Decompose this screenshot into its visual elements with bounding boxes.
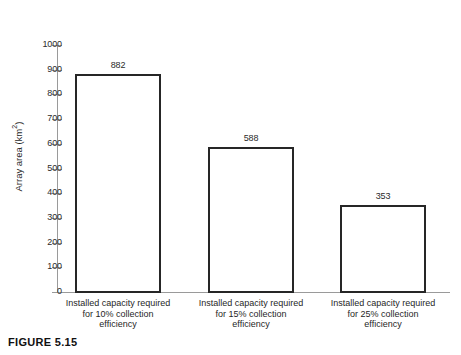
category-label-line: for 25% collection — [325, 309, 441, 320]
bar-series-0 — [75, 74, 161, 293]
bar-chart-plot: Array area (km2) 1000 900 800 700 600 50… — [0, 0, 461, 330]
y-axis-title-superscript: 2 — [11, 125, 18, 129]
y-tick-label: 0 — [28, 287, 62, 296]
y-tick-label: 400 — [28, 188, 62, 197]
y-tick-label: 500 — [28, 164, 62, 173]
y-tick-label: 200 — [28, 238, 62, 247]
bar-value-label: 882 — [75, 61, 161, 70]
category-label-line: for 10% collection — [60, 309, 176, 320]
category-label-line: Installed capacity required — [325, 298, 441, 309]
category-label-line: Installed capacity required — [193, 298, 309, 309]
figure-container: Array area (km2) 1000 900 800 700 600 50… — [0, 0, 461, 355]
figure-caption: FIGURE 5.15 — [8, 336, 77, 349]
y-tick-label: 700 — [28, 114, 62, 123]
bar-value-label: 353 — [340, 192, 426, 201]
y-tick-label: 100 — [28, 262, 62, 271]
bar-series-1 — [208, 147, 294, 293]
category-label-line: Installed capacity required — [60, 298, 176, 309]
y-tick-label: 1000 — [28, 40, 62, 49]
bar-value-label: 588 — [208, 134, 294, 143]
y-tick-label: 800 — [28, 89, 62, 98]
category-label-1: Installed capacity required for 15% coll… — [193, 298, 309, 330]
y-tick-label: 900 — [28, 65, 62, 74]
y-axis-title-close: ) — [13, 122, 24, 125]
category-label-line: for 15% collection — [193, 309, 309, 320]
category-label-2: Installed capacity required for 25% coll… — [325, 298, 441, 330]
y-tick-label: 600 — [28, 139, 62, 148]
y-axis-title-text: Array area (km — [13, 129, 24, 192]
category-label-line: efficiency — [60, 319, 176, 330]
category-label-0: Installed capacity required for 10% coll… — [60, 298, 176, 330]
y-axis-title: Array area (km2) — [10, 102, 23, 212]
bar-series-2 — [340, 205, 426, 293]
category-label-line: efficiency — [193, 319, 309, 330]
category-label-line: efficiency — [325, 319, 441, 330]
y-tick-label: 300 — [28, 213, 62, 222]
